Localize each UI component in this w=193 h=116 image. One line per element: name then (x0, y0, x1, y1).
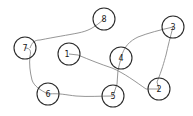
node-4: 4 (110, 47, 132, 69)
graph-diagram: 1 2 3 4 5 6 7 8 (0, 0, 193, 116)
edge-5-6 (48, 94, 113, 97)
edge-4-5 (113, 58, 121, 96)
node-label: 5 (110, 92, 115, 101)
node-8: 8 (93, 8, 115, 30)
node-1: 1 (58, 43, 80, 65)
node-label: 1 (64, 50, 69, 59)
graph-svg: 1 2 3 4 5 6 7 8 (0, 0, 193, 116)
node-3: 3 (162, 16, 184, 38)
edges (25, 19, 173, 96)
edge-1-2 (69, 54, 159, 89)
node-label: 3 (170, 23, 175, 32)
node-label: 4 (118, 54, 123, 63)
node-label: 2 (156, 85, 161, 94)
edge-6-7 (25, 48, 48, 94)
node-7: 7 (14, 37, 36, 59)
node-label: 7 (22, 44, 27, 53)
edge-3-4 (121, 27, 173, 58)
node-label: 8 (101, 15, 106, 24)
node-label: 6 (45, 90, 50, 99)
